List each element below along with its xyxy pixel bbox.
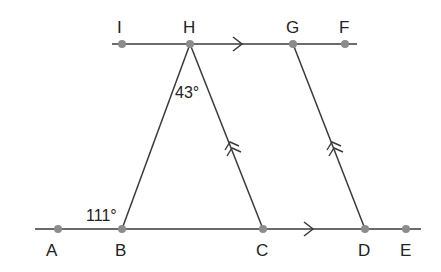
point-B: [118, 225, 126, 233]
angle-label-B: 111°: [86, 207, 117, 224]
label-C: C: [256, 241, 268, 260]
point-E: [402, 225, 410, 233]
label-F: F: [339, 18, 349, 37]
segment-HB: [122, 44, 190, 229]
segment-GD: [293, 44, 365, 229]
point-G: [289, 40, 297, 48]
point-H: [186, 40, 194, 48]
label-H: H: [183, 18, 195, 37]
point-A: [54, 225, 62, 233]
segment-HC: [190, 44, 263, 229]
point-F: [341, 40, 349, 48]
point-C: [259, 225, 267, 233]
label-G: G: [286, 18, 299, 37]
label-I: I: [117, 18, 122, 37]
label-E: E: [400, 241, 411, 260]
diagram-canvas: I H G F A B C D E 43° 111°: [0, 0, 441, 272]
label-B: B: [115, 241, 126, 260]
point-I: [118, 40, 126, 48]
geometry-diagram: I H G F A B C D E 43° 111°: [0, 0, 441, 272]
point-D: [361, 225, 369, 233]
angle-label-H: 43°: [175, 84, 199, 101]
label-D: D: [358, 241, 370, 260]
label-A: A: [46, 241, 58, 260]
